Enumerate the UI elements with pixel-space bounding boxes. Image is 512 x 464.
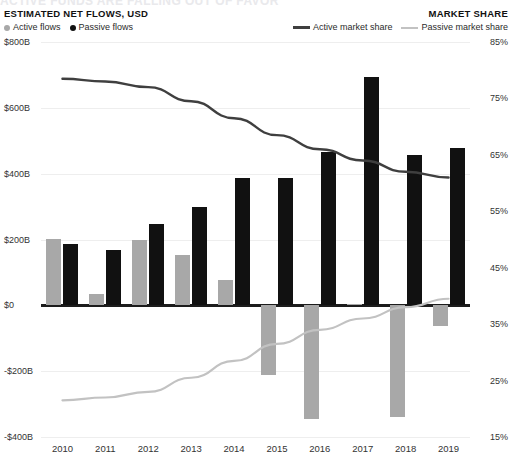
bar-passive-flows[interactable] — [106, 250, 121, 305]
bar-passive-flows[interactable] — [63, 244, 78, 305]
y-axis-left-tick: -$200B — [4, 366, 33, 376]
y-axis-right-tick: 35% — [490, 319, 508, 329]
bar-active-flows[interactable] — [433, 305, 448, 325]
bar-passive-flows[interactable] — [278, 178, 293, 305]
x-axis-tick: 2019 — [427, 443, 470, 454]
y-axis-left-tick: $0 — [4, 300, 14, 310]
bar-active-flows[interactable] — [347, 304, 362, 306]
x-axis-tick: 2016 — [298, 443, 341, 454]
bar-active-flows[interactable] — [218, 280, 233, 305]
y-axis-right-tick: 55% — [490, 206, 508, 216]
gridline — [41, 174, 470, 175]
market-share-lines — [0, 0, 512, 464]
bar-active-flows[interactable] — [132, 240, 147, 305]
bar-passive-flows[interactable] — [407, 155, 422, 305]
y-axis-right-tick: 75% — [490, 93, 508, 103]
x-axis-tick: 2017 — [341, 443, 384, 454]
bar-passive-flows[interactable] — [235, 178, 250, 305]
y-axis-right-tick: 85% — [490, 37, 508, 47]
gridline — [41, 437, 470, 438]
bar-active-flows[interactable] — [261, 305, 276, 375]
y-axis-left-tick: $400B — [4, 169, 30, 179]
chart-plot-area: $800B$600B$400B$200B$0-$200B-$400B 85%75… — [0, 0, 512, 464]
bar-active-flows[interactable] — [46, 239, 61, 306]
bar-passive-flows[interactable] — [149, 224, 164, 306]
bar-passive-flows[interactable] — [321, 152, 336, 305]
x-axis-tick: 2011 — [84, 443, 127, 454]
y-axis-left-tick: -$400B — [4, 432, 33, 442]
x-axis-tick: 2018 — [384, 443, 427, 454]
y-axis-left-tick: $800B — [4, 37, 30, 47]
bar-active-flows[interactable] — [175, 255, 190, 305]
y-axis-right-tick: 65% — [490, 150, 508, 160]
bar-passive-flows[interactable] — [364, 77, 379, 305]
line-active-market-share — [62, 79, 448, 178]
bar-passive-flows[interactable] — [192, 207, 207, 306]
x-axis-tick: 2013 — [170, 443, 213, 454]
bar-active-flows[interactable] — [390, 305, 405, 417]
y-axis-left-tick: $200B — [4, 235, 30, 245]
y-axis-right-tick: 25% — [490, 376, 508, 386]
y-axis-right-tick: 45% — [490, 263, 508, 273]
x-axis-tick: 2014 — [213, 443, 256, 454]
bar-active-flows[interactable] — [89, 294, 104, 305]
gridline — [41, 42, 470, 43]
bar-passive-flows[interactable] — [450, 148, 465, 305]
gridline — [41, 108, 470, 109]
y-axis-left-tick: $600B — [4, 103, 30, 113]
gridline — [41, 371, 470, 372]
y-axis-right-tick: 15% — [490, 432, 508, 442]
x-axis-tick: 2012 — [127, 443, 170, 454]
zero-line — [41, 304, 470, 307]
x-axis-tick: 2015 — [256, 443, 299, 454]
bar-active-flows[interactable] — [304, 305, 319, 419]
gridline — [41, 240, 470, 241]
x-axis-tick: 2010 — [41, 443, 84, 454]
